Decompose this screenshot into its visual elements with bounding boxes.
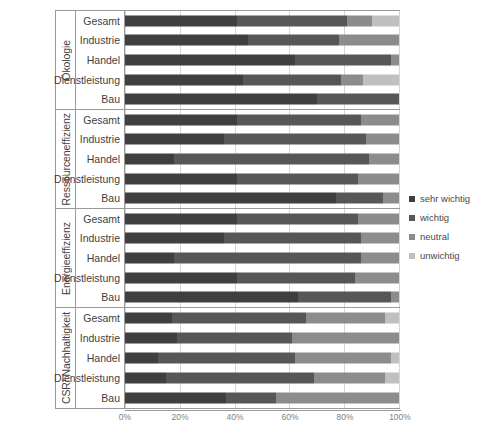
bar-segment: [125, 233, 224, 244]
bar-segment: [276, 393, 399, 404]
stacked-bar: [125, 173, 399, 184]
legend-swatch-icon: [409, 253, 415, 259]
legend-item: wichtig: [409, 208, 493, 227]
bar-segment: [226, 393, 275, 404]
row-category-label: Handel: [76, 248, 125, 268]
group-rows: GesamtIndustrieHandelDienstleistungBau: [76, 110, 399, 208]
bar-segment: [347, 15, 372, 26]
legend-item: unwichtig: [409, 246, 493, 265]
x-axis-tick-label: 60%: [281, 412, 298, 422]
stacked-bar: [125, 252, 399, 263]
bar-segment: [298, 292, 391, 303]
legend-label: sehr wichtig: [420, 193, 470, 204]
bar-segment: [385, 373, 399, 384]
group-rows: GesamtIndustrieHandelDienstleistungBau: [76, 209, 399, 307]
bar-segment: [125, 353, 158, 364]
stacked-bar: [125, 35, 399, 46]
row-category-label: Bau: [76, 188, 125, 208]
bar-segment: [248, 35, 338, 46]
bar-segment: [125, 54, 295, 65]
chart-row: Gesamt: [76, 209, 399, 229]
row-category-label: Dienstleistung: [76, 70, 125, 90]
bar-segment: [158, 353, 295, 364]
bar-segment: [237, 114, 360, 125]
bar-segment: [125, 193, 336, 204]
bar-segment: [385, 313, 399, 324]
bar-segment: [372, 15, 399, 26]
row-category-label: Gesamt: [76, 209, 125, 229]
bar-segment: [125, 252, 174, 263]
stacked-bar: [125, 94, 399, 105]
stacked-bar: [125, 313, 399, 324]
bar-segment: [174, 252, 360, 263]
row-category-label: Industrie: [76, 229, 125, 249]
row-category-label: Handel: [76, 348, 125, 368]
row-category-label: Dienstleistung: [76, 368, 125, 388]
bar-segment: [125, 35, 248, 46]
chart-row: Gesamt: [76, 11, 399, 31]
bar-segment: [243, 74, 342, 85]
row-category-label: Industrie: [76, 31, 125, 51]
row-category-label: Industrie: [76, 130, 125, 150]
bar-segment: [125, 333, 177, 344]
bar-segment: [177, 333, 292, 344]
bar-segment: [361, 252, 399, 263]
bar-segment: [355, 272, 399, 283]
group-title: Ressourceneffizienz: [56, 110, 76, 208]
bar-cell: [125, 328, 399, 348]
x-axis: 0%20%40%60%80%100%: [125, 412, 400, 432]
x-axis-tick-label: 40%: [226, 412, 243, 422]
bar-segment: [391, 292, 399, 303]
bar-segment: [224, 233, 361, 244]
bar-cell: [125, 209, 399, 229]
row-category-label: Dienstleistung: [76, 268, 125, 288]
bar-segment: [125, 173, 237, 184]
x-axis-tick-label: 80%: [336, 412, 353, 422]
bar-segment: [125, 74, 243, 85]
bar-segment: [166, 373, 314, 384]
bar-cell: [125, 348, 399, 368]
row-category-label: Industrie: [76, 328, 125, 348]
bar-segment: [314, 373, 385, 384]
bar-cell: [125, 268, 399, 288]
x-axis-tick-label: 0%: [119, 412, 131, 422]
stacked-bar: [125, 153, 399, 164]
chart-group: CSR/ NachhaltigkeitGesamtIndustrieHandel…: [55, 307, 400, 409]
chart-row: Industrie: [76, 130, 399, 150]
bar-segment: [391, 353, 399, 364]
x-axis-tick-label: 20%: [171, 412, 188, 422]
bar-segment: [361, 233, 399, 244]
row-category-label: Bau: [76, 287, 125, 307]
bar-segment: [391, 54, 399, 65]
bar-segment: [125, 292, 298, 303]
bar-cell: [125, 70, 399, 90]
bar-cell: [125, 11, 399, 31]
stacked-bar: [125, 114, 399, 125]
stacked-bar-chart: ÖkologieGesamtIndustrieHandelDienstleist…: [0, 0, 496, 439]
stacked-bar: [125, 353, 399, 364]
bar-segment: [306, 313, 385, 324]
bar-segment: [317, 94, 399, 105]
chart-row: Gesamt: [76, 308, 399, 328]
chart-row: Handel: [76, 248, 399, 268]
chart-row: Gesamt: [76, 110, 399, 130]
x-axis-tick-label: 100%: [389, 412, 411, 422]
stacked-bar: [125, 272, 399, 283]
group-rows: GesamtIndustrieHandelDienstleistungBau: [76, 11, 399, 109]
stacked-bar: [125, 15, 399, 26]
bar-segment: [339, 35, 399, 46]
bar-segment: [369, 153, 399, 164]
stacked-bar: [125, 292, 399, 303]
bar-cell: [125, 248, 399, 268]
bar-segment: [361, 114, 399, 125]
row-category-label: Gesamt: [76, 308, 125, 328]
legend-swatch-icon: [409, 215, 415, 221]
group-title: CSR/ Nachhaltigkeit: [56, 308, 76, 408]
chart-row: Bau: [76, 388, 399, 408]
bar-cell: [125, 50, 399, 70]
row-category-label: Bau: [76, 388, 125, 408]
row-category-label: Handel: [76, 50, 125, 70]
bar-cell: [125, 169, 399, 189]
chart-group: EnergieeffizienzGesamtIndustrieHandelDie…: [55, 208, 400, 307]
stacked-bar: [125, 373, 399, 384]
